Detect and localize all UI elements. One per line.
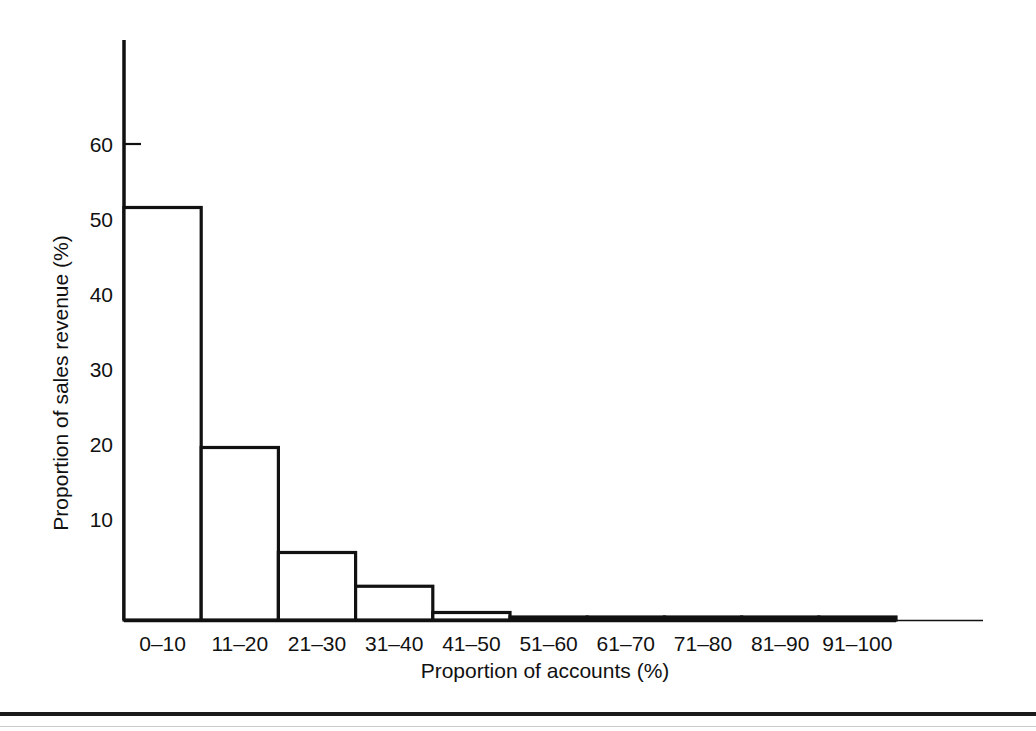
- histogram-bar: [510, 617, 587, 620]
- figure-page: 60 50 40 30 20 10 0–1011–2021–3031–4041–…: [0, 0, 1036, 731]
- x-tick-label: 81–90: [751, 632, 809, 655]
- x-axis-title: Proportion of accounts (%): [421, 659, 670, 682]
- x-tick-label: 61–70: [597, 632, 655, 655]
- histogram-bar: [124, 208, 201, 621]
- x-tick-label-group: 0–1011–2021–3031–4041–5051–6061–7071–808…: [139, 632, 892, 655]
- histogram-bar: [356, 586, 433, 620]
- y-axis-title: Proportion of sales revenue (%): [49, 235, 72, 530]
- histogram-bar: [664, 617, 741, 620]
- x-tick-label: 91–100: [822, 632, 892, 655]
- histogram-bar: [433, 613, 510, 621]
- histogram-chart: 60 50 40 30 20 10 0–1011–2021–3031–4041–…: [0, 0, 1036, 700]
- y-tick-label-20: 20: [90, 433, 113, 456]
- histogram-bar: [742, 617, 819, 620]
- y-tick-label-30: 30: [90, 358, 113, 381]
- x-tick-label: 51–60: [519, 632, 577, 655]
- x-tick-label: 41–50: [442, 632, 500, 655]
- histogram-bar: [201, 448, 278, 621]
- page-bottom-rule: [0, 712, 1036, 716]
- y-tick-label-50: 50: [90, 208, 113, 231]
- x-tick-label: 0–10: [139, 632, 186, 655]
- y-tick-label-10: 10: [90, 508, 113, 531]
- histogram-figure: 60 50 40 30 20 10 0–1011–2021–3031–4041–…: [0, 0, 1036, 700]
- page-bottom-rule-thin: [0, 726, 1036, 727]
- bar-group: [124, 208, 896, 621]
- histogram-bar: [587, 617, 664, 620]
- x-tick-label: 71–80: [674, 632, 732, 655]
- y-tick-label-60: 60: [90, 133, 113, 156]
- histogram-bar: [819, 617, 896, 620]
- histogram-bar: [278, 553, 355, 621]
- y-tick-label-40: 40: [90, 283, 113, 306]
- x-tick-label: 11–20: [211, 632, 268, 655]
- x-tick-label: 21–30: [288, 632, 346, 655]
- x-tick-label: 31–40: [365, 632, 423, 655]
